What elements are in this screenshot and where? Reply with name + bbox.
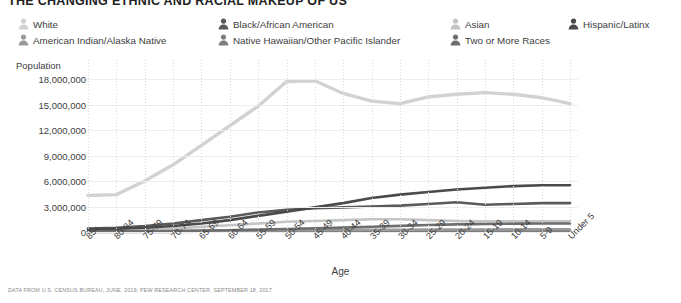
vertical-gridline <box>343 60 344 232</box>
legend-item-label: Black/African American <box>233 19 334 30</box>
legend-item-label: Asian <box>465 19 490 30</box>
legend-item-5[interactable]: Two or More Races <box>450 34 550 46</box>
legend-item-label: Hispanic/Latinx <box>583 19 649 30</box>
y-tick-label: 9,000,000 <box>8 150 86 161</box>
person-icon <box>218 18 229 30</box>
vertical-gridline <box>428 60 429 232</box>
vertical-gridline <box>116 60 117 232</box>
vertical-gridline <box>258 60 259 232</box>
person-icon <box>18 34 29 46</box>
person-icon <box>568 18 579 30</box>
legend-item-1[interactable]: American Indian/Alaska Native <box>18 34 166 46</box>
legend-item-6[interactable]: Hispanic/Latinx <box>568 18 649 30</box>
vertical-gridline <box>485 60 486 232</box>
legend-item-0[interactable]: White <box>18 18 58 30</box>
legend-item-label: American Indian/Alaska Native <box>33 35 166 46</box>
y-tick-label: 18,000,000 <box>8 74 86 85</box>
vertical-gridline <box>400 60 401 232</box>
vertical-gridline <box>230 60 231 232</box>
vertical-gridline <box>315 60 316 232</box>
legend-item-label: White <box>33 19 58 30</box>
vertical-gridline <box>457 60 458 232</box>
x-axis-label: Age <box>0 266 681 277</box>
legend-item-4[interactable]: Asian <box>450 18 490 30</box>
y-axis-ticks: 03,000,0006,000,0009,000,00012,000,00015… <box>0 60 86 275</box>
legend-item-label: Native Hawaiian/Other Pacific Islander <box>233 35 400 46</box>
series-line-0 <box>88 81 570 196</box>
vertical-gridline <box>513 60 514 232</box>
horizontal-gridline <box>86 79 578 80</box>
vertical-gridline <box>372 60 373 232</box>
y-tick-label: 15,000,000 <box>8 99 86 110</box>
person-icon <box>450 34 461 46</box>
source-note: DATA FROM U.S. CENSUS BUREAU, JUNE, 2019… <box>8 287 272 293</box>
y-tick-label: 12,000,000 <box>8 125 86 136</box>
legend-item-2[interactable]: Black/African American <box>218 18 334 30</box>
legend-item-label: Two or More Races <box>465 35 550 46</box>
person-icon <box>450 18 461 30</box>
vertical-gridline <box>173 60 174 232</box>
vertical-gridline <box>201 60 202 232</box>
person-icon <box>218 34 229 46</box>
horizontal-gridline <box>86 232 578 233</box>
vertical-gridline <box>145 60 146 232</box>
horizontal-gridline <box>86 130 578 131</box>
y-tick-label: 3,000,000 <box>8 201 86 212</box>
horizontal-gridline <box>86 156 578 157</box>
horizontal-gridline <box>86 105 578 106</box>
vertical-gridline <box>88 60 89 232</box>
y-tick-label: 6,000,000 <box>8 176 86 187</box>
legend-item-3[interactable]: Native Hawaiian/Other Pacific Islander <box>218 34 400 46</box>
horizontal-gridline <box>86 207 578 208</box>
chart-legend: WhiteAmerican Indian/Alaska NativeBlack/… <box>18 18 678 52</box>
vertical-gridline <box>570 60 571 232</box>
y-tick-label: 0 <box>8 227 86 238</box>
vertical-gridline <box>542 60 543 232</box>
horizontal-gridline <box>86 181 578 182</box>
vertical-gridline <box>287 60 288 232</box>
page-title: THE CHANGING ETHNIC AND RACIAL MAKEUP OF… <box>8 0 347 8</box>
person-icon <box>18 18 29 30</box>
